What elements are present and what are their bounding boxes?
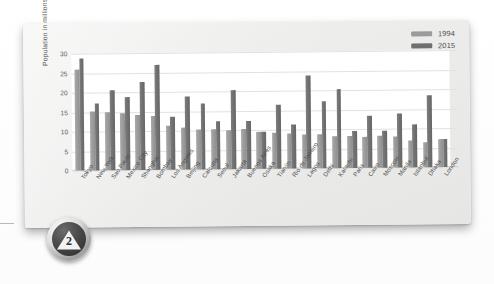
bar-2015 (276, 105, 281, 169)
x-label-cell: Moscow (375, 171, 391, 223)
x-label-cell: Karachi (330, 171, 346, 223)
bar-group (313, 51, 329, 168)
figure-panel: 1994 2015 Population in millions 0510152… (23, 20, 471, 228)
bar-2015 (321, 101, 326, 169)
bar-group (404, 50, 420, 167)
x-label-cell: Calcutta (193, 172, 209, 224)
x-label-cell: Manila (390, 170, 406, 222)
bar-group (238, 52, 254, 169)
legend-entry-2015: 2015 (411, 41, 455, 50)
x-label-cell: Seoul (209, 172, 225, 224)
bar-group (102, 53, 118, 170)
x-label-cell: Bombay (148, 173, 164, 225)
chapter-badge: 2 (47, 217, 91, 261)
bar-2015 (79, 59, 85, 171)
x-label-cell: Shanghai (133, 173, 149, 225)
bar-2015 (427, 95, 432, 167)
badge-number: 2 (66, 234, 72, 249)
y-tick-label-15: 15 (28, 109, 68, 116)
page-edge-rule (0, 223, 14, 224)
x-label-cell: Osaka (254, 172, 270, 224)
bar-2015 (382, 131, 387, 168)
bar-group (86, 53, 102, 170)
bar-group (207, 52, 223, 169)
bar-2015 (230, 90, 235, 169)
chart-legend: 1994 2015 (411, 29, 455, 50)
x-label-cell: Paris (345, 171, 361, 223)
x-label-cell: Tianjin (269, 172, 285, 224)
bar-group (71, 54, 87, 171)
bar-group (162, 53, 178, 170)
bar-group (359, 51, 375, 168)
bar-group (434, 50, 450, 167)
bar-group (268, 52, 284, 169)
x-label-cell: Sao Paulo (103, 173, 119, 225)
bar-2015 (291, 124, 296, 168)
x-axis-labels: TokyoNew YorkSao PauloMexico CityShangha… (72, 170, 450, 226)
bar-2015 (443, 139, 448, 167)
x-label-cell: Istanbul (405, 170, 421, 222)
x-label-cell: Delhi (314, 171, 330, 223)
legend-entry-1994: 1994 (411, 29, 455, 38)
x-label-cell: Los Angeles (163, 173, 179, 225)
bar-group (344, 51, 360, 168)
bar-group (283, 52, 299, 169)
x-label-cell: Buenos Aires (239, 172, 255, 224)
bar-2015 (336, 89, 341, 168)
bar-group (192, 52, 208, 169)
y-tick-label-20: 20 (28, 89, 68, 96)
legend-swatch-2015 (411, 43, 432, 48)
bar-2015 (367, 116, 372, 168)
bar-2015 (200, 104, 205, 170)
x-label-cell: London (435, 170, 451, 222)
bar-group (374, 51, 390, 168)
bar-group (328, 51, 344, 168)
bar-2015 (94, 103, 99, 170)
x-label-cell: Dhaka (420, 170, 436, 222)
x-label-cell: Jakarta (224, 172, 240, 224)
x-label-cell: Mexico City (118, 173, 134, 225)
x-label-cell: Lagos (299, 171, 315, 223)
bar-2015 (352, 131, 357, 168)
y-tick-label-30: 30 (27, 50, 67, 57)
badge-disc: 2 (52, 222, 86, 256)
x-label-cell: Cairo (360, 171, 376, 223)
bar-group (419, 50, 435, 167)
x-label-cell: Beijing (178, 173, 194, 225)
legend-label-1994: 1994 (438, 29, 455, 38)
y-tick-label-10: 10 (28, 128, 68, 135)
x-label-cell: Rio de Janeiro (284, 171, 300, 223)
bar-group (389, 50, 405, 167)
y-tick-label-0: 0 (28, 167, 68, 174)
y-tick-label-25: 25 (27, 70, 67, 77)
bar-group (223, 52, 239, 169)
y-axis-ticks: 051015202530 (23, 54, 72, 171)
legend-label-2015: 2015 (438, 41, 455, 50)
legend-swatch-1994 (411, 31, 432, 36)
bar-group (147, 53, 163, 170)
y-tick-label-5: 5 (28, 148, 68, 155)
